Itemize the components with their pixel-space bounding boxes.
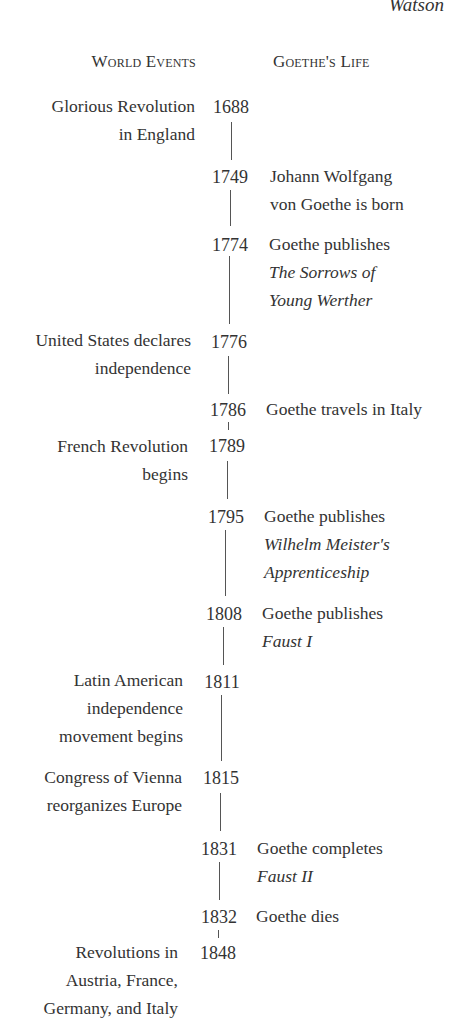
year-label: 1831 bbox=[194, 838, 244, 860]
work-title-line: Apprenticeship bbox=[264, 558, 390, 586]
life-event: Goethe dies bbox=[256, 902, 339, 930]
world-event-line: reorganizes Europe bbox=[44, 791, 182, 819]
timeline-connector bbox=[225, 530, 226, 596]
world-event-line: United States declares bbox=[35, 326, 191, 354]
year-label: 1815 bbox=[196, 767, 246, 789]
life-event: Goethe publishes Wilhelm Meister's Appre… bbox=[264, 502, 390, 586]
year-label: 1776 bbox=[204, 331, 254, 353]
timeline-connector bbox=[219, 862, 220, 900]
world-event-line: Glorious Revolution bbox=[52, 92, 195, 120]
work-title-line: Wilhelm Meister's bbox=[264, 530, 390, 558]
world-event-line: French Revolution bbox=[57, 432, 188, 460]
year-label: 1749 bbox=[205, 166, 255, 188]
timeline-connector bbox=[230, 190, 231, 226]
year-label: 1688 bbox=[206, 96, 256, 118]
world-event: Revolutions in Austria, France, Germany,… bbox=[44, 938, 178, 1021]
world-event: United States declares independence bbox=[35, 326, 191, 382]
timeline-connector bbox=[223, 627, 224, 665]
year-label: 1808 bbox=[199, 603, 249, 625]
life-event-line: Goethe publishes bbox=[262, 599, 383, 627]
world-event-line: independence bbox=[35, 354, 191, 382]
year-label: 1795 bbox=[201, 506, 251, 528]
timeline-connector bbox=[227, 461, 228, 499]
work-title-line: Faust II bbox=[257, 862, 383, 890]
world-event-line: Austria, France, bbox=[44, 966, 178, 994]
world-event: Congress of Vienna reorganizes Europe bbox=[44, 763, 182, 819]
timeline-connector bbox=[218, 930, 219, 938]
timeline-connector bbox=[228, 356, 229, 394]
life-event: Goethe publishes The Sorrows of Young We… bbox=[269, 230, 390, 314]
life-event: Johann Wolfgang von Goethe is born bbox=[270, 162, 404, 218]
timeline: 1688 Glorious Revolution in England 1749… bbox=[0, 0, 458, 1021]
life-event-line: Goethe travels in Italy bbox=[266, 395, 422, 423]
world-event: French Revolution begins bbox=[57, 432, 188, 488]
year-label: 1774 bbox=[205, 234, 255, 256]
timeline-connector bbox=[231, 122, 232, 160]
work-title-line: Faust I bbox=[262, 627, 383, 655]
world-event-line: Revolutions in bbox=[44, 938, 178, 966]
life-event: Goethe travels in Italy bbox=[266, 395, 422, 423]
timeline-connector bbox=[221, 695, 222, 761]
timeline-connector bbox=[220, 793, 221, 831]
work-title-line: The Sorrows of bbox=[269, 258, 390, 286]
life-event-line: Goethe publishes bbox=[264, 502, 390, 530]
life-event-line: Goethe completes bbox=[257, 834, 383, 862]
year-label: 1811 bbox=[197, 671, 247, 693]
life-event: Goethe completes Faust II bbox=[257, 834, 383, 890]
timeline-connector bbox=[228, 422, 229, 430]
world-event: Glorious Revolution in England bbox=[52, 92, 195, 148]
world-event: Latin American independence movement beg… bbox=[59, 666, 183, 750]
life-event-line: Goethe publishes bbox=[269, 230, 390, 258]
life-event-line: von Goethe is born bbox=[270, 190, 404, 218]
world-event-line: movement begins bbox=[59, 722, 183, 750]
life-event-line: Goethe dies bbox=[256, 902, 339, 930]
world-event-line: Germany, and Italy bbox=[44, 994, 178, 1021]
world-event-line: Latin American bbox=[59, 666, 183, 694]
world-event-line: begins bbox=[57, 460, 188, 488]
world-event-line: in England bbox=[52, 120, 195, 148]
life-event: Goethe publishes Faust I bbox=[262, 599, 383, 655]
year-label: 1786 bbox=[203, 399, 253, 421]
timeline-connector bbox=[229, 256, 230, 324]
year-label: 1832 bbox=[194, 906, 244, 928]
year-label: 1848 bbox=[193, 942, 243, 964]
work-title-line: Young Werther bbox=[269, 286, 390, 314]
world-event-line: Congress of Vienna bbox=[44, 763, 182, 791]
year-label: 1789 bbox=[202, 435, 252, 457]
world-event-line: independence bbox=[59, 694, 183, 722]
life-event-line: Johann Wolfgang bbox=[270, 162, 404, 190]
